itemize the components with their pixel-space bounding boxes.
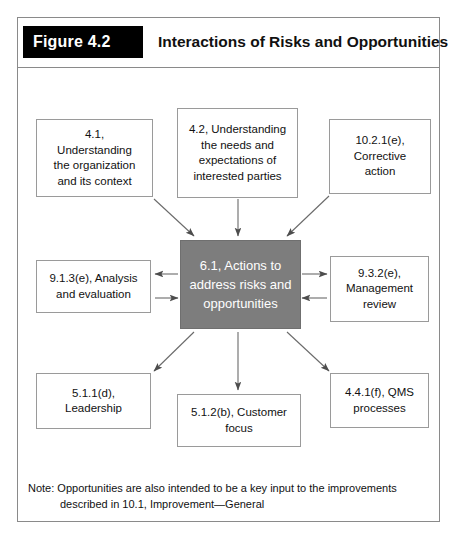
arrow-center-to-4-4-1f — [287, 332, 329, 371]
node-5-1-2b[interactable]: 5.1.2(b), Customerfocus — [177, 394, 301, 447]
node-center-6-1[interactable]: 6.1, Actions toaddress risks andopportun… — [180, 240, 301, 329]
arrow-10-2-1e-to-center — [287, 196, 329, 236]
figure-note: Note: Opportunities are also intended to… — [28, 480, 428, 512]
node-9-1-3e[interactable]: 9.1.3(e), Analysisand evaluation — [36, 260, 151, 313]
figure-number-tag: Figure 4.2 — [23, 26, 143, 58]
node-4-1[interactable]: 4.1,Understandingthe organizationand its… — [36, 119, 153, 197]
arrow-4-1-to-center — [154, 199, 194, 236]
diagram-canvas: 4.1,Understandingthe organizationand its… — [18, 68, 439, 521]
arrow-center-to-5-1-1d — [154, 332, 194, 371]
node-10-2-1e[interactable]: 10.2.1(e),Correctiveaction — [329, 119, 431, 194]
node-9-3-2e[interactable]: 9.3.2(e),Managementreview — [330, 256, 429, 322]
figure-frame: Figure 4.2 Interactions of Risks and Opp… — [17, 17, 440, 522]
node-5-1-1d[interactable]: 5.1.1(d),Leadership — [36, 373, 151, 429]
node-4-2[interactable]: 4.2, Understandingthe needs andexpectati… — [177, 108, 298, 198]
figure-header: Figure 4.2 Interactions of Risks and Opp… — [18, 18, 439, 67]
node-4-4-1f[interactable]: 4.4.1(f), QMSprocesses — [330, 373, 429, 428]
figure-note-line-1: Note: Opportunities are also intended to… — [28, 482, 397, 494]
figure-note-line-2: described in 10.1, Improvement—General — [28, 496, 428, 512]
figure-title: Interactions of Risks and Opportunities — [158, 26, 448, 58]
